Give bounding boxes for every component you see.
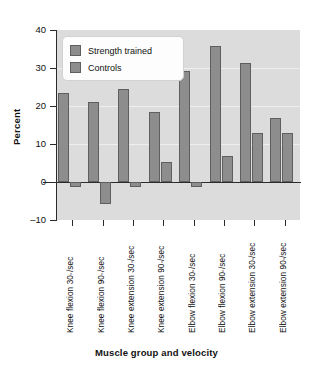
y-tick-label: 0 [12,176,46,187]
x-tick-mark [224,220,225,226]
bar [58,93,69,182]
x-tick-label: Elbow flexion 30°/sec [188,229,197,333]
bar [222,156,233,182]
x-tick-mark [103,220,104,226]
legend-item-strength-trained: Strength trained [70,42,176,59]
y-tick-mark [50,220,57,221]
bar [161,162,172,182]
x-tick-label: Knee flexion 90°/sec [97,229,106,333]
y-tick-label: 30 [12,62,46,73]
bar [282,133,293,182]
x-tick-label: Knee flexion 30°/sec [66,229,75,333]
zero-baseline [43,182,301,183]
bar [118,89,129,182]
bar [270,118,281,182]
x-tick-mark [194,220,195,226]
x-tick-mark [254,220,255,226]
x-tick-mark [72,220,73,226]
bar [149,112,160,182]
x-tick-label: Elbow extension 90°/sec [279,229,288,333]
y-tick-mark [50,68,57,69]
legend-item-controls: Controls [70,59,176,76]
bar-chart-figure: Percent 403020100–10 Knee flexion 30°/se… [0,0,313,373]
bar [240,63,251,182]
y-tick-mark [50,144,57,145]
y-tick-label: 20 [12,100,46,111]
x-tick-label: Knee extension 30°/sec [127,229,136,333]
x-tick-label: Elbow extension 30°/sec [248,229,257,333]
y-tick-mark [50,30,57,31]
legend-label: Controls [88,63,122,73]
bar [70,182,81,187]
y-tick-label: 40 [12,24,46,35]
x-tick-mark [133,220,134,226]
x-tick-mark [285,220,286,226]
legend-label: Strength trained [88,46,152,56]
bar [210,46,221,182]
y-tick-mark [50,182,57,183]
legend-swatch-icon [70,45,81,56]
bar [191,182,202,187]
bar [100,182,111,204]
y-tick-label: 10 [12,138,46,149]
x-tick-label: Knee extension 90°/sec [157,229,166,333]
x-tick-label: Elbow flexion 90°/sec [218,229,227,333]
x-axis-title: Muscle group and velocity [0,347,313,358]
bar [252,133,263,182]
x-tick-mark [163,220,164,226]
y-tick-mark [50,106,57,107]
y-tick-label: –10 [12,214,46,225]
legend-swatch-icon [70,62,81,73]
bar [88,102,99,182]
legend: Strength trained Controls [62,36,184,81]
bar [130,182,141,187]
bar [179,71,190,182]
